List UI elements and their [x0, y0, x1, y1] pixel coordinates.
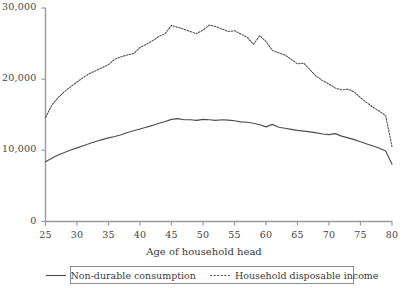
y-axis-tick-label: 20,000 [0, 72, 37, 83]
y-axis-tick-label: 10,000 [0, 143, 37, 154]
y-axis-tick-label: 0 [0, 215, 37, 226]
legend-label-income: Household disposable income [235, 270, 379, 281]
legend-swatch-solid-line-icon [46, 273, 66, 278]
chart-legend: Non-durable consumption Household dispos… [70, 266, 354, 284]
legend-swatch-dotted-line-icon [210, 273, 230, 278]
series-line-income [46, 25, 393, 147]
legend-label-consumption: Non-durable consumption [71, 270, 196, 281]
series-line-consumption [46, 119, 393, 165]
x-axis-tick-label: 80 [372, 229, 408, 240]
data-series-layer [46, 25, 393, 164]
legend-item-income: Household disposable income [210, 270, 379, 281]
legend-item-consumption: Non-durable consumption [46, 270, 196, 281]
y-axis-tick-label: 30,000 [0, 1, 37, 12]
x-axis-title: Age of household head [0, 246, 408, 257]
chart-figure: 010,00020,00030,000 25303540455055606570… [0, 0, 408, 288]
chart-plot-area [0, 0, 408, 288]
